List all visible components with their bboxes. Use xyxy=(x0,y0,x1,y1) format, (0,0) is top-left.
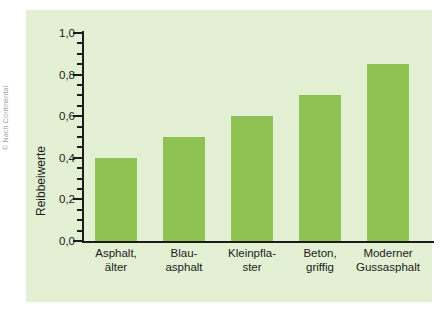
y-tick-label: 0,0 xyxy=(59,235,75,247)
y-tick-minor xyxy=(77,219,84,221)
y-tick-minor xyxy=(77,136,84,138)
y-tick-label: 0,6 xyxy=(59,110,75,122)
y-tick-minor xyxy=(77,126,84,128)
y-tick-minor xyxy=(77,94,84,96)
chart-panel: Reibbeiwerte 0,00,20,40,60,81,0 Asphalt,… xyxy=(26,10,432,302)
y-tick-minor xyxy=(77,188,84,190)
y-tick-minor xyxy=(77,209,84,211)
bar xyxy=(231,116,273,241)
x-axis-line xyxy=(82,241,434,243)
bar xyxy=(163,137,205,241)
y-tick-label: 0,8 xyxy=(59,69,75,81)
y-tick-minor xyxy=(77,105,84,107)
y-tick-minor xyxy=(77,63,84,65)
y-tick-minor xyxy=(77,146,84,148)
y-tick-minor xyxy=(77,53,84,55)
x-tick-label: Moderner Gussasphalt xyxy=(348,247,428,274)
y-tick-minor xyxy=(77,167,84,169)
y-axis-title: Reibbeiwerte xyxy=(34,146,48,216)
bar xyxy=(299,95,341,241)
plot-area: 0,00,20,40,60,81,0 xyxy=(82,33,422,241)
copyright-credit: © Nach Continental xyxy=(2,86,9,150)
bar xyxy=(367,64,409,241)
y-tick-label: 0,4 xyxy=(59,152,75,164)
y-tick-minor xyxy=(77,178,84,180)
y-tick-label: 0,2 xyxy=(59,193,75,205)
y-tick-minor xyxy=(77,230,84,232)
chart-figure: © Nach Continental Reibbeiwerte 0,00,20,… xyxy=(0,0,440,312)
bar xyxy=(95,158,137,241)
y-tick-minor xyxy=(77,84,84,86)
y-tick-minor xyxy=(77,42,84,44)
y-tick-label: 1,0 xyxy=(59,27,75,39)
